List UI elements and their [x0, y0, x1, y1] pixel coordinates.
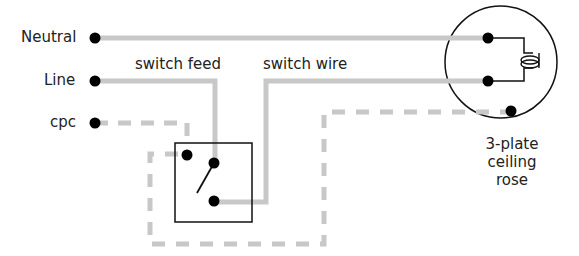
cpc-label: cpc [50, 115, 76, 130]
ceiling-rose-label-line1: 3-plate [472, 135, 552, 153]
line-terminal [90, 76, 101, 87]
switch-feed-wire [95, 81, 215, 162]
line-label: Line [44, 73, 75, 88]
neutral-label: Neutral [21, 30, 76, 45]
ceiling-rose-label-line3: rose [472, 171, 552, 189]
switch-earth-terminal [182, 150, 193, 161]
lamp-lead-neutral [488, 38, 533, 53]
switch-output-terminal [209, 196, 220, 207]
cpc-terminal [90, 118, 101, 129]
rose-earth-terminal [506, 106, 517, 117]
switch-wire [214, 81, 488, 202]
cpc-wire-to-switch [95, 123, 187, 140]
diagram-svg [0, 0, 579, 256]
ceiling-rose-label-line2: ceiling [472, 153, 552, 171]
rose-neutral-terminal [483, 33, 494, 44]
lamp-lead-switched [488, 68, 533, 81]
ceiling-rose-outline [445, 6, 557, 118]
cpc-wire-to-rose [150, 112, 510, 244]
neutral-terminal [90, 33, 101, 44]
switch-feed-label: switch feed [135, 57, 221, 72]
rose-switched-terminal [483, 76, 494, 87]
ceiling-rose-label: 3-plate ceiling rose [472, 135, 552, 189]
switch-common-terminal [209, 158, 220, 169]
wiring-diagram: Neutral Line cpc switch feed switch wire… [0, 0, 579, 256]
switch-wire-label: switch wire [263, 57, 347, 72]
lamp-filament-icon [521, 53, 539, 68]
